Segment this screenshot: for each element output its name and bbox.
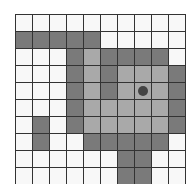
grid-cell-dark-cell[interactable] (101, 66, 117, 82)
grid-cell-empty[interactable] (152, 168, 168, 184)
grid-cell-empty[interactable] (67, 134, 83, 150)
grid-cell-dark-cell[interactable] (67, 117, 83, 133)
grid-cell-dark-cell[interactable] (118, 168, 134, 184)
grid-cell-empty[interactable] (152, 32, 168, 48)
grid-cell-empty[interactable] (84, 151, 100, 167)
grid-cell-empty[interactable] (50, 117, 66, 133)
grid-cell-empty[interactable] (84, 15, 100, 31)
grid-cell-dark-cell[interactable] (135, 49, 151, 65)
grid-cell-dark-cell[interactable] (33, 134, 49, 150)
grid-cell-empty[interactable] (33, 168, 49, 184)
grid-cell-dark-cell[interactable] (84, 32, 100, 48)
grid-cell-light-cell[interactable] (84, 100, 100, 116)
grid-cell-empty[interactable] (50, 49, 66, 65)
grid-cell-empty[interactable] (16, 15, 32, 31)
grid-cell-empty[interactable] (67, 168, 83, 184)
grid-cell-light-cell[interactable] (135, 117, 151, 133)
grid-cell-dark-cell[interactable] (84, 134, 100, 150)
grid-cell-empty[interactable] (67, 15, 83, 31)
grid-cell-empty[interactable] (152, 151, 168, 167)
grid-cell-light-cell[interactable] (101, 100, 117, 116)
grid-cell-dark-cell[interactable] (33, 117, 49, 133)
grid-cell-empty[interactable] (50, 151, 66, 167)
grid-cell-light-cell[interactable] (152, 117, 168, 133)
grid-cell-empty[interactable] (50, 100, 66, 116)
grid-cell-dark-cell[interactable] (118, 49, 134, 65)
grid-cell-light-cell[interactable] (118, 117, 134, 133)
grid-cell-dark-cell[interactable] (169, 83, 185, 99)
grid-cell-empty[interactable] (33, 49, 49, 65)
grid-cell-dark-cell[interactable] (50, 32, 66, 48)
grid-cell-empty[interactable] (169, 49, 185, 65)
grid-cell-dark-cell[interactable] (67, 66, 83, 82)
grid-cell-empty[interactable] (50, 83, 66, 99)
grid-cell-empty[interactable] (101, 151, 117, 167)
grid-cell-empty[interactable] (169, 168, 185, 184)
grid-cell-light-cell[interactable] (152, 83, 168, 99)
grid-cell-empty[interactable] (16, 83, 32, 99)
grid-cell-empty[interactable] (33, 66, 49, 82)
grid-cell-light-cell[interactable] (84, 83, 100, 99)
grid-cell-dark-cell[interactable] (67, 100, 83, 116)
grid-cell-empty[interactable] (50, 15, 66, 31)
grid-cell-empty[interactable] (33, 83, 49, 99)
grid-cell-dark-cell[interactable] (118, 151, 134, 167)
grid-cell-empty[interactable] (101, 15, 117, 31)
grid-cell-dark-cell[interactable] (67, 32, 83, 48)
grid-cell-dark-cell[interactable] (33, 32, 49, 48)
grid-cell-dark-cell[interactable] (169, 66, 185, 82)
grid-cell-empty[interactable] (118, 15, 134, 31)
grid-cell-dark-cell[interactable] (152, 49, 168, 65)
grid-cell-light-cell[interactable] (152, 66, 168, 82)
grid-cell-dark-cell[interactable] (67, 49, 83, 65)
grid-cell-empty[interactable] (16, 66, 32, 82)
grid-cell-empty[interactable] (33, 151, 49, 167)
grid-cell-empty[interactable] (50, 168, 66, 184)
grid-cell-dark-cell[interactable] (135, 134, 151, 150)
grid-cell-empty[interactable] (50, 134, 66, 150)
grid-cell-empty[interactable] (33, 100, 49, 116)
grid-cell-dark-cell[interactable] (101, 83, 117, 99)
grid-cell-light-cell[interactable] (135, 100, 151, 116)
grid-cell-empty[interactable] (16, 49, 32, 65)
grid-cell-light-cell[interactable] (84, 49, 100, 65)
grid-cell-empty[interactable] (50, 66, 66, 82)
grid-cell-light-cell[interactable] (135, 83, 151, 99)
grid-cell-empty[interactable] (169, 151, 185, 167)
grid-cell-empty[interactable] (169, 134, 185, 150)
grid-cell-empty[interactable] (84, 168, 100, 184)
grid-cell-empty[interactable] (118, 32, 134, 48)
grid-cell-light-cell[interactable] (152, 100, 168, 116)
grid-cell-empty[interactable] (16, 151, 32, 167)
grid-cell-empty[interactable] (135, 32, 151, 48)
grid-cell-light-cell[interactable] (84, 117, 100, 133)
grid-cell-empty[interactable] (16, 134, 32, 150)
grid-cell-light-cell[interactable] (101, 117, 117, 133)
grid-cell-dark-cell[interactable] (169, 100, 185, 116)
grid-cell-empty[interactable] (16, 117, 32, 133)
grid-cell-dark-cell[interactable] (118, 134, 134, 150)
grid-cell-empty[interactable] (135, 15, 151, 31)
grid-cell-dark-cell[interactable] (169, 117, 185, 133)
grid-cell-light-cell[interactable] (135, 66, 151, 82)
grid-cell-dark-cell[interactable] (135, 168, 151, 184)
grid-cell-light-cell[interactable] (118, 83, 134, 99)
grid-cell-light-cell[interactable] (118, 100, 134, 116)
grid-cell-dark-cell[interactable] (152, 134, 168, 150)
grid-cell-empty[interactable] (67, 151, 83, 167)
grid-cell-light-cell[interactable] (118, 66, 134, 82)
grid-cell-empty[interactable] (101, 168, 117, 184)
grid-cell-dark-cell[interactable] (67, 83, 83, 99)
grid-cell-dark-cell[interactable] (135, 151, 151, 167)
grid-cell-dark-cell[interactable] (101, 49, 117, 65)
grid-cell-empty[interactable] (169, 32, 185, 48)
grid-cell-empty[interactable] (101, 32, 117, 48)
grid-cell-empty[interactable] (16, 100, 32, 116)
grid-cell-dark-cell[interactable] (101, 134, 117, 150)
grid-cell-empty[interactable] (169, 15, 185, 31)
grid-cell-light-cell[interactable] (84, 66, 100, 82)
grid-cell-empty[interactable] (152, 15, 168, 31)
grid-cell-empty[interactable] (16, 168, 32, 184)
grid-cell-empty[interactable] (33, 15, 49, 31)
grid-cell-dark-cell[interactable] (16, 32, 32, 48)
